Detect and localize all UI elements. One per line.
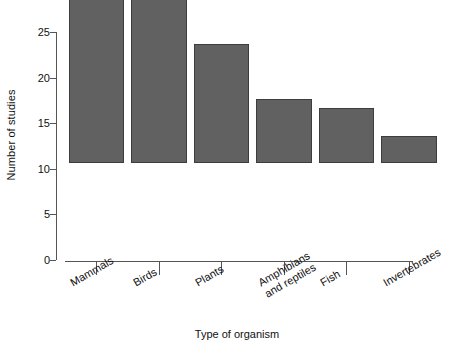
x-axis-line [65,261,413,262]
bar-chart-figure: Number of studies 0510152025 MammalsBird… [0,0,474,358]
x-axis-title: Type of organism [0,328,474,340]
x-axis-category-label: Birds [131,265,159,289]
bar [256,99,312,163]
bar [381,136,437,163]
x-axis-tick-mark [159,261,160,275]
x-axis-category-label: Plants [193,263,226,290]
bar [131,0,187,163]
x-axis-tick-mark [346,261,347,275]
plot-area [0,0,474,261]
x-axis-category-label: Fish [318,268,342,290]
bar [194,44,250,163]
bar [69,0,125,163]
bar [319,108,375,163]
